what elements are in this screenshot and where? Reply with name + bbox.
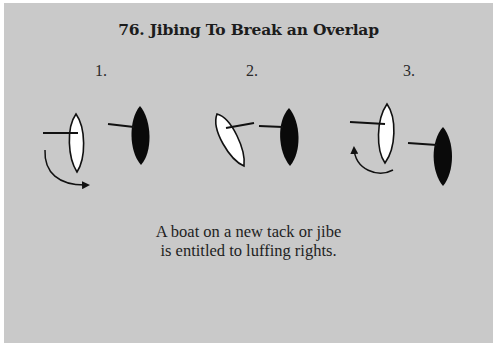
diagram-caption: A boat on a new tack or jibe is entitled… xyxy=(0,222,497,260)
step-3-black-boat xyxy=(408,127,452,186)
step-1-black-boat xyxy=(108,106,150,165)
caption-line-2: is entitled to luffing rights. xyxy=(0,241,497,260)
caption-line-1: A boat on a new tack or jibe xyxy=(0,222,497,241)
step-2-white-boat xyxy=(216,114,254,166)
step-1-white-boat xyxy=(43,114,84,172)
step-2-black-boat xyxy=(259,108,299,166)
step-3-white-boat xyxy=(350,104,394,163)
sailing-diagram xyxy=(0,0,497,350)
